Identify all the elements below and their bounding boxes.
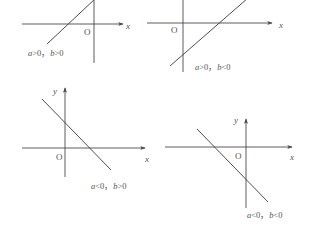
linear-function-diagram: xOa>0，b>0xOa>0，b<0xOya<0，b>0xOya<0，b<0 [0,0,309,229]
x-axis-label: x [289,152,294,162]
function-line [47,0,96,44]
condition-label: a<0，b<0 [247,210,283,220]
function-line [42,99,111,170]
y-axis-label: y [52,86,57,96]
x-axis-label: x [125,21,130,31]
origin-label: O [171,25,178,35]
panel-p1: xOa>0，b>0 [22,0,130,63]
panel-p4: xOya<0，b<0 [165,115,294,220]
x-axis-label: x [144,154,149,164]
panel-p2: xOa>0，b<0 [147,0,283,72]
x-axis-label: x [278,20,283,30]
origin-label: O [56,152,63,162]
panel-p3: xOya<0，b>0 [22,86,149,191]
condition-label: a<0，b>0 [91,181,127,191]
origin-label: O [84,27,91,37]
condition-label: a>0，b<0 [195,62,231,72]
function-line [197,129,268,202]
origin-label: O [235,151,242,161]
condition-label: a>0，b>0 [28,48,64,58]
y-axis-label: y [233,115,238,125]
function-line [170,0,248,66]
